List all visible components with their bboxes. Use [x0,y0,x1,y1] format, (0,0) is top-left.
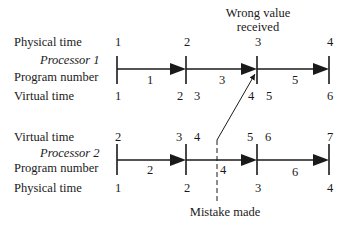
p1-program-number: 5 [292,73,298,87]
p1-physical-time-tick: 1 [115,35,121,49]
p2-program-number-label: Program number [14,161,98,175]
p1-program-number: 3 [219,73,225,87]
p2-program-number: 6 [292,165,298,179]
p1-program-number: 1 [147,73,153,87]
p2-physical-time-tick: 4 [327,181,333,195]
p1-virtual-time: 2 [177,89,183,103]
p2-physical-time-tick: 2 [184,181,190,195]
p2-arrowhead-1 [170,154,186,166]
p2-virtual-time: 5 [247,130,253,144]
p1-arrowhead-3 [313,63,329,75]
p2-physical-time-tick: 1 [115,181,121,195]
p1-physical-time-tick: 3 [255,35,261,49]
p2-virtual-time: 6 [265,130,271,144]
p1-physical-time-tick: 2 [184,35,190,49]
processor2-title: Processor 2 [40,146,100,160]
p1-virtual-time: 5 [266,89,272,103]
p2-virtual-time: 3 [176,130,182,144]
p2-virtual-time-label: Virtual time [14,130,74,144]
p1-arrowhead-2 [241,63,257,75]
p2-program-number: 4 [220,163,226,177]
wrong-value-line1: Wrong value [226,6,290,20]
p2-program-number: 2 [147,163,153,177]
p1-arrowhead-1 [170,63,186,75]
p1-physical-time-label: Physical time [14,35,82,49]
p2-virtual-time: 7 [327,130,333,144]
p2-arrowhead-2 [241,154,257,166]
wrong-value-annotation: Wrong value received [226,6,290,34]
p1-virtual-time: 6 [327,89,333,103]
p2-virtual-time: 2 [115,130,121,144]
p1-virtual-time: 3 [194,89,200,103]
mistake-made-annotation: Mistake made [190,205,260,219]
p2-physical-time-label: Physical time [14,181,82,195]
processor1-title: Processor 1 [40,53,100,67]
wrong-value-line2: received [226,20,290,34]
p2-physical-time-tick: 3 [255,181,261,195]
p2-virtual-time: 4 [194,130,200,144]
p1-virtual-time: 4 [248,89,254,103]
p1-virtual-time-label: Virtual time [14,89,74,103]
p1-virtual-time: 1 [115,89,121,103]
p1-program-number-label: Program number [14,70,98,84]
p1-physical-time-tick: 4 [327,35,333,49]
p2-arrowhead-3 [313,154,329,166]
